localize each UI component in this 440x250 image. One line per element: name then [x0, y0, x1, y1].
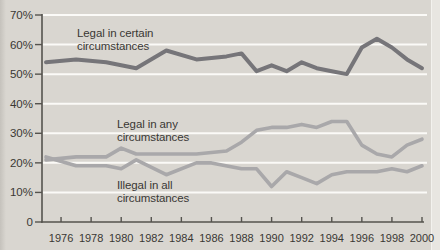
- series-line-legal-in-any-circumstances: [46, 122, 422, 160]
- y-tick-label-10: 10%: [10, 186, 33, 198]
- opinion-trend-chart: 010%20%30%40%50%60%70%197619781980198219…: [0, 0, 440, 250]
- x-tick-label-1992: 1992: [289, 232, 313, 244]
- y-tick-label-40: 40%: [10, 98, 33, 110]
- x-tick-label-1998: 1998: [380, 232, 404, 244]
- x-tick-label-1996: 1996: [350, 232, 374, 244]
- series-label-legal-certain: Legal in certain circumstances: [77, 27, 153, 53]
- y-tick-label-60: 60%: [10, 39, 33, 51]
- x-tick-label-1982: 1982: [139, 232, 163, 244]
- y-tick-label-50: 50%: [10, 68, 33, 80]
- x-tick-label-1976: 1976: [49, 232, 73, 244]
- series-line-illegal-in-all-circumstances: [46, 157, 422, 187]
- x-tick-label-1978: 1978: [79, 232, 103, 244]
- y-tick-label-30: 30%: [10, 127, 33, 139]
- x-tick-label-1980: 1980: [109, 232, 133, 244]
- y-tick-label-20: 20%: [10, 157, 33, 169]
- x-tick-label-1984: 1984: [169, 232, 193, 244]
- x-tick-label-1990: 1990: [259, 232, 283, 244]
- series-label-legal-any: Legal in any circumstances: [117, 118, 189, 144]
- x-tick-label-1988: 1988: [229, 232, 253, 244]
- x-tick-label-1986: 1986: [199, 232, 223, 244]
- y-tick-label-70: 70%: [10, 9, 33, 21]
- y-tick-label-0: 0: [27, 216, 33, 228]
- x-tick-label-1994: 1994: [320, 232, 344, 244]
- x-tick-label-2000: 2000: [410, 232, 434, 244]
- line-chart-canvas: 010%20%30%40%50%60%70%197619781980198219…: [0, 0, 440, 250]
- series-label-illegal-all: Illegal in all circumstances: [117, 179, 189, 205]
